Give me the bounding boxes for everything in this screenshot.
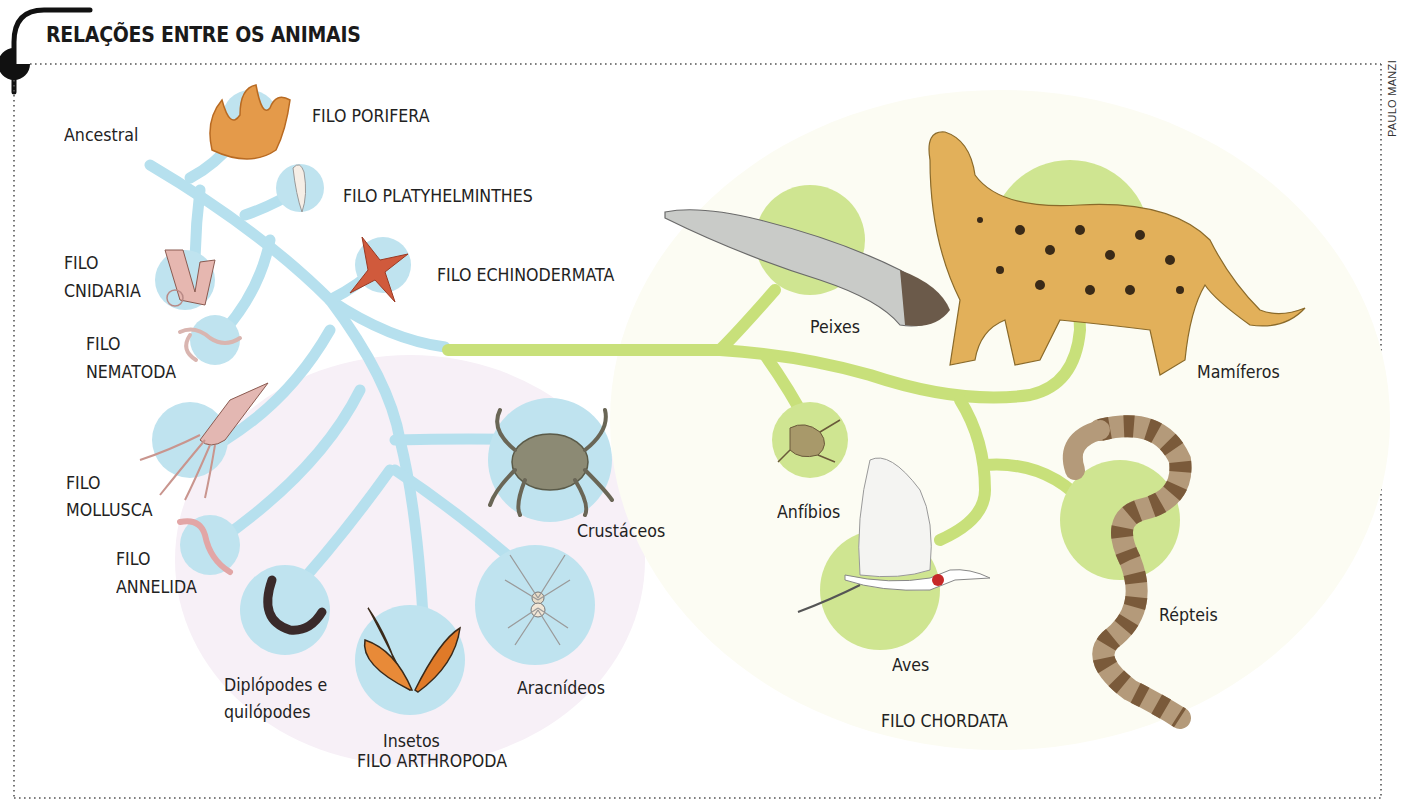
label-echinodermata: FILO ECHINODERMATA [437, 261, 614, 289]
label-nematoda-line2: NEMATODA [86, 358, 176, 386]
label-chordata-phylum: FILO CHORDATA [881, 707, 1008, 735]
label-mollusca-line1: FILO [66, 469, 101, 497]
sponge-icon [210, 85, 290, 159]
label-platyhelminthes: FILO PLATYHELMINTHES [343, 182, 533, 210]
label-aracnideos: Aracnídeos [517, 674, 605, 702]
label-porifera: FILO PORIFERA [312, 102, 430, 130]
label-annelida-line2: ANNELIDA [116, 573, 197, 601]
label-mamiferos: Mamíferos [1197, 358, 1280, 386]
label-cnidaria-line1: FILO [64, 249, 99, 277]
label-peixes: Peixes [810, 313, 860, 341]
ancestral-label: Ancestral [64, 121, 138, 149]
label-repteis: Répteis [1159, 601, 1218, 629]
label-cnidaria-line2: CNIDARIA [64, 277, 141, 305]
cladogram [0, 0, 1401, 811]
label-diplopodes-line1: Diplópodes e [224, 671, 327, 699]
label-arthropoda-phylum: FILO ARTHROPODA [357, 747, 507, 775]
label-anfibios: Anfíbios [777, 498, 840, 526]
label-diplopodes-line2: quilópodes [224, 698, 310, 726]
label-nematoda-line1: FILO [86, 330, 121, 358]
label-annelida-line1: FILO [116, 545, 151, 573]
label-mollusca-line2: MOLLUSCA [66, 496, 153, 524]
label-crustaceos: Crustáceos [577, 517, 665, 545]
chordate-zone [610, 90, 1390, 750]
label-aves: Aves [892, 651, 929, 679]
